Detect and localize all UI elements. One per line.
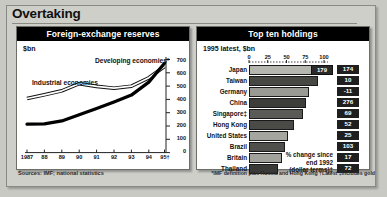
- source-note: Sources: IMF; national statistics: [18, 170, 104, 176]
- x-tick-1987: 1987: [18, 154, 36, 160]
- bar-x-tick-50: 50: [280, 54, 294, 60]
- y-tick-400: 400: [170, 96, 186, 102]
- panel-top-ten-holdings: Top ten holdings 1995 latest, $bn 0 25 5…: [196, 26, 370, 170]
- bar-singapore: [249, 109, 303, 119]
- bar-label-united-states: United States: [197, 131, 247, 140]
- x-tick-92: 92: [105, 154, 123, 160]
- left-panel-heading: Foreign-exchange reserves: [17, 27, 189, 41]
- pct-change-united-states: 25: [337, 131, 359, 140]
- x-tick-91: 91: [88, 154, 106, 160]
- line-chart: 700 600 500 400 300 200 100 0: [17, 41, 189, 169]
- right-panel-heading: Top ten holdings: [197, 27, 369, 41]
- pct-change-china: 276: [337, 98, 359, 107]
- pct-change-britain: 17: [337, 153, 359, 162]
- pct-change-taiwan: 10: [337, 76, 359, 85]
- pct-change-japan: 174: [337, 65, 359, 74]
- title-divider: [12, 23, 357, 24]
- bar-label-china: China: [199, 98, 247, 107]
- annotation-industrial-economies: Industrial economies: [32, 79, 84, 86]
- page-title: Overtaking: [12, 6, 81, 21]
- bar-row-taiwan: Taiwan 10: [197, 76, 369, 85]
- bar-chart: 0 25 50 75 100: [197, 41, 369, 169]
- y-tick-600: 600: [170, 70, 186, 76]
- bar-row-singapore: Singapore‡ 69: [197, 109, 369, 118]
- economist-chart-figure: Overtaking Foreign-exchange reserves $bn…: [0, 0, 387, 197]
- right-panel-body: 1995 latest, $bn 0 25 50 75 100: [197, 41, 369, 169]
- bar-label-britain: Britain: [199, 153, 247, 162]
- bar-label-taiwan: Taiwan: [199, 76, 247, 85]
- bar-row-united-states: United States 25: [197, 131, 369, 140]
- bar-hong-kong: [249, 120, 294, 130]
- bar-china: [249, 98, 306, 108]
- x-tick-88: 88: [35, 154, 53, 160]
- y-tick-300: 300: [170, 109, 186, 115]
- x-tick-93: 93: [122, 154, 140, 160]
- bar-germany: [249, 87, 309, 97]
- x-tick-89: 89: [53, 154, 71, 160]
- bar-x-tick-75: 75: [298, 54, 312, 60]
- bar-x-tick-0: 0: [242, 54, 256, 60]
- bar-x-tick-25: 25: [261, 54, 275, 60]
- bar-label-brazil: Brazil: [199, 142, 247, 151]
- annotation-developing-economies: Developing economies*: [95, 57, 151, 64]
- y-tick-700: 700: [170, 57, 186, 63]
- bar-row-china: China 276: [197, 98, 369, 107]
- bar-row-japan: Japan 179 174: [197, 65, 369, 74]
- y-tick-200: 200: [170, 122, 186, 128]
- x-tick-95: 95†: [156, 154, 174, 160]
- left-panel-body: $bn 700 600 500 400 300 200 100 0: [17, 41, 189, 169]
- y-tick-100: 100: [170, 135, 186, 141]
- bar-united-states: [249, 131, 288, 141]
- bar-row-germany: Germany -11: [197, 87, 369, 96]
- pct-change-hong-kong: 52: [337, 120, 359, 129]
- pct-change-brazil: 103: [337, 142, 359, 151]
- bar-x-tick-100: 100: [317, 54, 331, 60]
- bar-row-brazil: Brazil 103: [197, 142, 369, 151]
- y-tick-500: 500: [170, 83, 186, 89]
- bar-label-singapore: Singapore‡: [197, 109, 247, 118]
- bar-taiwan: [249, 76, 318, 86]
- bar-label-japan: Japan: [199, 65, 247, 74]
- bar-row-hong-kong: Hong Kong 52: [197, 120, 369, 129]
- x-tick-90: 90: [70, 154, 88, 160]
- panel-foreign-exchange-reserves: Foreign-exchange reserves $bn 700 600 50…: [16, 26, 190, 170]
- footnote: *IMF definition plus Russia and Hong Kon…: [211, 170, 375, 176]
- pct-change-singapore: 69: [337, 109, 359, 118]
- pct-change-germany: -11: [337, 87, 359, 96]
- bar-label-hong-kong: Hong Kong: [197, 120, 247, 129]
- bar-label-germany: Germany: [199, 87, 247, 96]
- bar-value-japan: 179: [311, 65, 333, 75]
